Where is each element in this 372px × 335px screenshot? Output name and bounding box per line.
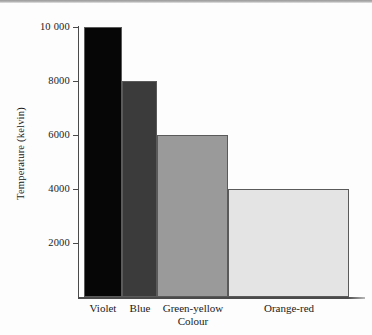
y-axis-tick-label-10000: 10 000 — [40, 22, 70, 32]
bar-blue[interactable] — [122, 81, 157, 297]
x-axis-tick-label-orange-red: Orange-red — [248, 302, 330, 314]
x-axis-title: Colour — [133, 315, 253, 327]
bar-orange-red[interactable] — [228, 189, 349, 297]
y-axis-tick-6000 — [73, 135, 79, 136]
y-axis-tick-8000 — [73, 81, 79, 82]
x-axis-tick-label-green-yellow: Green-yellow — [152, 302, 234, 314]
plot-area: 10 000 8000 6000 4000 2000 Temperature (… — [0, 0, 372, 335]
y-axis-tick-label-6000: 6000 — [48, 130, 70, 140]
y-axis-tick-label-2000: 2000 — [48, 238, 70, 248]
chart-figure: 10 000 8000 6000 4000 2000 Temperature (… — [0, 0, 372, 335]
y-axis-tick-10000 — [73, 27, 79, 28]
y-axis-tick-label-8000: 8000 — [48, 76, 70, 86]
bar-green-yellow[interactable] — [157, 135, 228, 297]
y-axis-tick-2000 — [73, 243, 79, 244]
bar-violet[interactable] — [84, 27, 122, 297]
x-axis-line — [78, 297, 365, 299]
y-axis-line — [78, 26, 79, 298]
y-axis-tick-4000 — [73, 189, 79, 190]
y-axis-title: Temperature (kelvin) — [15, 74, 26, 234]
y-axis-tick-label-4000: 4000 — [48, 184, 70, 194]
